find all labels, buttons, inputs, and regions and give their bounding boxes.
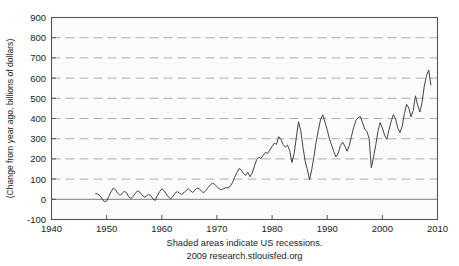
y-tick-label: 800 — [30, 32, 46, 43]
y-tick-label: 500 — [30, 93, 46, 104]
x-tick-label: 1940 — [41, 223, 62, 234]
y-tick-label: 900 — [30, 12, 46, 23]
x-tick-label: 1960 — [151, 223, 172, 234]
x-tick-label: 2010 — [427, 223, 448, 234]
y-tick-label: 400 — [30, 113, 46, 124]
chart-figure: -100010020030040050060070080090019401950… — [0, 0, 459, 266]
recession-note: Shaded areas indicate US recessions. — [167, 238, 323, 248]
y-tick-label: 0 — [41, 194, 46, 205]
y-tick-label: 200 — [30, 153, 46, 164]
source-note: 2009 research.stlouisfed.org — [187, 251, 303, 261]
x-tick-label: 1980 — [262, 223, 283, 234]
x-tick-label: 1990 — [317, 223, 338, 234]
y-tick-label: 300 — [30, 133, 46, 144]
y-axis-title: (Change from year ago, billions of dolla… — [5, 39, 15, 199]
x-tick-label: 1970 — [206, 223, 227, 234]
x-tick-label: 1950 — [96, 223, 117, 234]
x-tick-label: 2000 — [372, 223, 393, 234]
y-tick-label: 700 — [30, 52, 46, 63]
y-tick-label: 100 — [30, 174, 46, 185]
y-tick-label: 600 — [30, 73, 46, 84]
